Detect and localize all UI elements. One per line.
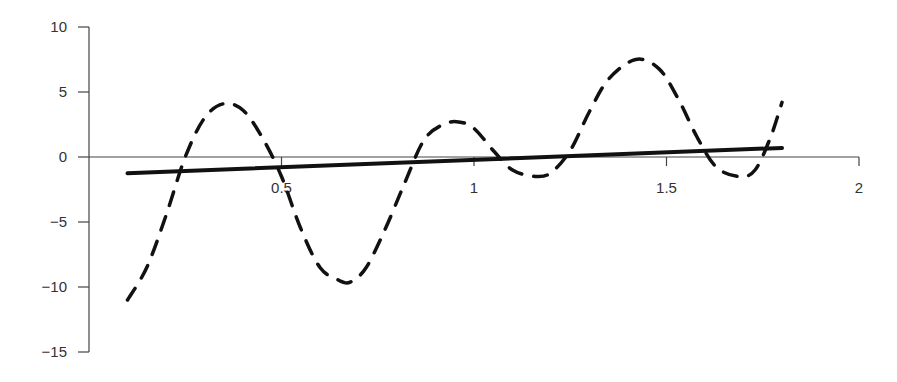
- solid-line: [128, 148, 783, 173]
- axes: 1050−5−10−150.511.52: [42, 18, 864, 360]
- x-tick-label: 1.5: [656, 179, 677, 196]
- series-layer: [128, 59, 783, 300]
- line-chart: 1050−5−10−150.511.52: [0, 0, 897, 382]
- y-tick-label: 10: [50, 18, 67, 35]
- dashed-curve: [128, 59, 783, 300]
- y-tick-label: −10: [42, 278, 67, 295]
- x-tick-label: 2: [855, 179, 863, 196]
- y-tick-label: 5: [59, 83, 67, 100]
- y-tick-label: −15: [42, 343, 67, 360]
- x-tick-label: 1: [470, 179, 478, 196]
- y-tick-label: 0: [59, 148, 67, 165]
- y-tick-label: −5: [50, 213, 67, 230]
